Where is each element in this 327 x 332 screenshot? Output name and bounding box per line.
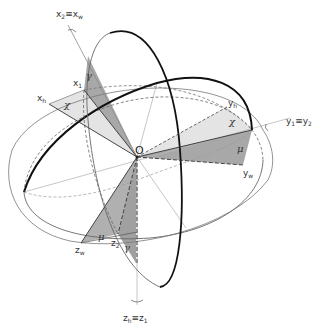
angle-label-mu-bottom: μ — [98, 231, 105, 242]
x-axis-line — [68, 25, 137, 157]
origin-label: O — [135, 144, 144, 157]
axis-label-x2-xw: x2≡xw — [56, 9, 83, 20]
point-label-yh: yh — [228, 98, 237, 109]
point-label-xh: xh — [37, 93, 46, 104]
angle-label-mu-right: μ — [237, 143, 244, 154]
angle-label-gamma-bottom: γ — [124, 242, 130, 253]
x-rotation-arrow-icon — [68, 29, 76, 32]
equator-ellipse-front — [24, 160, 263, 239]
point-label-zw: zw — [75, 245, 85, 256]
point-label-yw: yw — [243, 168, 253, 179]
axis-label-zh-z1: zh≡z1 — [123, 313, 148, 324]
diagonal-axis-line-2 — [137, 157, 186, 228]
angle-label-gamma-top: γ — [86, 70, 92, 81]
axis-label-y1-y2: y1≡y2 — [286, 116, 312, 127]
angle-label-chi-left: χ — [63, 99, 71, 110]
point-label-z2: z2 — [111, 238, 120, 249]
angle-label-chi-right: χ — [228, 116, 236, 127]
coordinate-frame-diagram: O x2≡xw y1≡y2 zh≡z1 x1 xh yh yw zw z2 γ … — [0, 0, 327, 332]
point-label-x1: x1 — [73, 78, 82, 89]
y-rotation-arrow-icon — [265, 124, 268, 131]
